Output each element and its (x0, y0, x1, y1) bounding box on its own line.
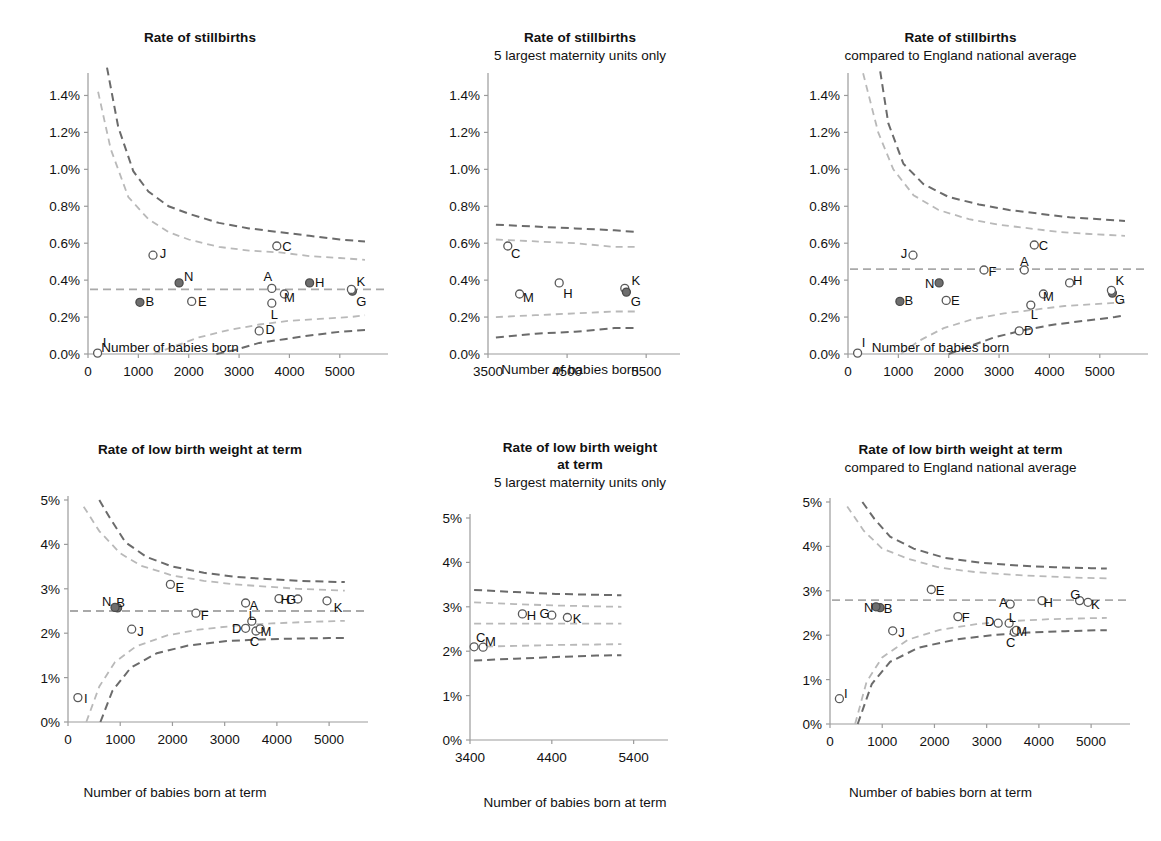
data-point-L (268, 299, 276, 307)
control-limit-upper-3sd (862, 502, 1106, 569)
data-point-E (188, 297, 196, 305)
panel-stillbirths-all: Rate of stillbirths 0.0%0.2%0.4%0.6%0.8%… (0, 22, 400, 382)
point-label-C: C (250, 634, 259, 649)
x-axis-title: Number of babies born (390, 362, 750, 377)
y-tick-label: 4% (442, 555, 462, 570)
y-tick-label: 3% (802, 584, 822, 599)
marker-J (149, 251, 157, 259)
point-label-M: M (1043, 289, 1054, 304)
data-point-E (942, 296, 950, 304)
y-tick-label: 2% (802, 628, 822, 643)
marker-K (563, 614, 571, 622)
data-point-F (954, 613, 962, 621)
marker-D (242, 624, 250, 632)
data-point-J (149, 251, 157, 259)
x-tick-label: 3000 (984, 364, 1014, 379)
data-point-K (323, 597, 331, 605)
point-label-D: D (266, 322, 275, 337)
point-label-N: N (864, 600, 873, 615)
control-limit-lower-2sd (496, 312, 638, 318)
data-point-A (268, 284, 276, 292)
point-label-F: F (201, 608, 209, 623)
x-tick-label: 3000 (972, 734, 1002, 749)
point-label-F: F (989, 264, 997, 279)
marker-A (242, 599, 250, 607)
point-label-B: B (884, 601, 893, 616)
data-point-K (1107, 286, 1115, 294)
y-tick-label: 0.8% (49, 199, 80, 214)
panel-stillbirths-england: Rate of stillbirths compared to England … (760, 22, 1161, 422)
data-point-I (74, 694, 82, 702)
data-point-N (935, 279, 943, 287)
data-point-N (175, 279, 183, 287)
panel-lbw-all: Rate of low birth weight at term 0%1%2%3… (0, 430, 400, 830)
y-tick-label: 1% (442, 689, 462, 704)
data-point-I (835, 695, 843, 703)
data-point-K (563, 614, 571, 622)
data-point-D (255, 327, 263, 335)
data-point-E (927, 586, 935, 594)
point-label-N: N (925, 276, 934, 291)
y-tick-label: 2% (40, 626, 60, 641)
marker-E (188, 297, 196, 305)
control-limit-upper-2sd (98, 92, 365, 260)
y-tick-label: 0% (40, 715, 60, 730)
point-label-K: K (1091, 597, 1100, 612)
panel-lbw-england: Rate of low birth weight at term compare… (760, 430, 1161, 830)
y-tick-label: 1.4% (449, 88, 480, 103)
point-label-H: H (527, 608, 536, 623)
funnel-plot-lbw-england: 0%1%2%3%4%5%010002000300040005000ABCDEFG… (760, 492, 1161, 817)
marker-G (622, 288, 630, 296)
x-axis-title: Number of babies born at term (395, 795, 755, 810)
marker-N (111, 603, 119, 611)
panel-subtitle: compared to England national average (760, 48, 1161, 64)
data-point-J (128, 625, 136, 633)
point-label-C: C (1006, 635, 1015, 650)
x-tick-label: 4000 (1024, 734, 1054, 749)
marker-N (175, 279, 183, 287)
marker-F (192, 609, 200, 617)
y-tick-label: 0.2% (449, 310, 480, 325)
data-point-J (889, 627, 897, 635)
point-label-D: D (985, 614, 994, 629)
point-label-K: K (334, 600, 343, 615)
panel-title: Rate of low birth weight at term (0, 442, 400, 458)
y-tick-label: 1.0% (809, 162, 840, 177)
control-limit-lower-3sd (858, 630, 1107, 724)
point-label-M: M (1016, 624, 1027, 639)
marker-L (268, 299, 276, 307)
point-label-A: A (999, 595, 1008, 610)
y-tick-label: 0.6% (809, 236, 840, 251)
point-label-G: G (356, 294, 366, 309)
x-tick-label: 2000 (919, 734, 949, 749)
point-label-G: G (539, 606, 549, 621)
x-tick-label: 4400 (537, 750, 567, 765)
y-tick-label: 0.4% (449, 273, 480, 288)
control-limit-lower-2sd (86, 621, 345, 722)
panel-lbw-top5: Rate of low birth weight at term 5 large… (400, 430, 760, 830)
point-label-C: C (1039, 238, 1048, 253)
data-point-G (622, 288, 630, 296)
data-point-N (111, 603, 119, 611)
point-label-M: M (523, 290, 534, 305)
y-tick-label: 3% (442, 600, 462, 615)
point-label-J: J (160, 246, 167, 261)
point-label-H: H (281, 592, 290, 607)
point-label-J: J (901, 246, 908, 261)
data-point-K (347, 285, 355, 293)
x-tick-label: 2000 (174, 364, 204, 379)
funnel-plot-stillbirths-top5: 0.0%0.2%0.4%0.6%0.8%1.0%1.2%1.4%35004500… (400, 67, 760, 397)
y-tick-label: 0.8% (809, 199, 840, 214)
x-tick-label: 1000 (123, 364, 153, 379)
panel-title: Rate of low birth weight (400, 440, 760, 456)
marker-K (323, 597, 331, 605)
point-label-N: N (102, 594, 111, 609)
marker-F (954, 613, 962, 621)
marker-D (255, 327, 263, 335)
marker-E (166, 580, 174, 588)
marker-I (835, 695, 843, 703)
marker-D (994, 619, 1002, 627)
point-label-D: D (1024, 323, 1033, 338)
point-label-L: L (249, 608, 256, 623)
y-tick-label: 0.0% (449, 347, 480, 362)
